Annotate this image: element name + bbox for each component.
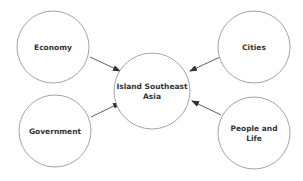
node-economy: Economy xyxy=(17,11,89,83)
node-label-people-line-1: People and xyxy=(230,124,277,133)
center-circle xyxy=(114,53,190,129)
node-center-island-southeast-asia: Island Southeast Asia xyxy=(114,53,190,129)
node-government: Government xyxy=(19,95,91,167)
arrow-government-to-center xyxy=(91,103,120,117)
node-people-and-life: People and Life xyxy=(218,97,290,169)
node-label-government: Government xyxy=(29,127,82,136)
center-label-line-2: Asia xyxy=(143,92,161,101)
arrow-people-to-center xyxy=(192,101,221,115)
arrow-cities-to-center xyxy=(190,57,220,71)
node-label-economy: Economy xyxy=(34,43,72,52)
arrow-economy-to-center xyxy=(90,57,120,71)
node-cities: Cities xyxy=(218,11,290,83)
node-label-cities: Cities xyxy=(242,43,266,52)
center-label-line-1: Island Southeast xyxy=(116,82,188,91)
node-circle xyxy=(218,97,290,169)
node-label-people-line-2: Life xyxy=(246,134,262,143)
concept-map-diagram: Economy Cities Island Southeast Asia Gov… xyxy=(0,0,303,181)
